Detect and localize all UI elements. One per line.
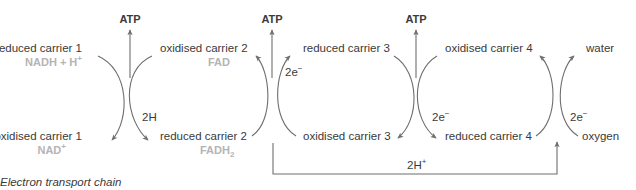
- curve-carrier4-oxidation: [536, 56, 553, 136]
- label-oxidised-carrier-2: oxidised carrier 2: [160, 42, 248, 54]
- label-reduced-carrier-1: reduced carrier 1: [0, 42, 82, 54]
- label-oxidised-carrier-1: oxidised carrier 1: [0, 130, 82, 142]
- chem-fadh2: FADH2: [200, 144, 235, 159]
- chem-nadh: NADH + H+: [25, 54, 82, 68]
- label-water: water: [585, 42, 614, 54]
- atp-label-3: ATP: [405, 13, 426, 25]
- transfer-label-2e-2: 2e−: [432, 109, 450, 123]
- atp-label-2: ATP: [261, 13, 282, 25]
- curve-carrier4-reduction: [417, 56, 437, 138]
- curve-carrier2-oxidation: [252, 56, 268, 136]
- label-reduced-carrier-3: reduced carrier 3: [303, 42, 390, 54]
- transfer-label-2h-plus: 2H+: [407, 157, 427, 171]
- label-reduced-carrier-2: reduced carrier 2: [160, 130, 247, 142]
- transfer-label-2e-3: 2e−: [570, 109, 588, 123]
- atp-label-1: ATP: [119, 13, 140, 25]
- label-oxidised-carrier-4: oxidised carrier 4: [445, 42, 533, 54]
- chem-fad: FAD: [208, 56, 230, 68]
- curve-carrier2-reduction: [129, 56, 152, 140]
- figure-caption: Electron transport chain: [0, 176, 121, 188]
- curve-carrier1-oxidation: [98, 56, 124, 140]
- label-oxidised-carrier-3: oxidised carrier 3: [303, 130, 391, 142]
- label-oxygen: oxygen: [582, 130, 619, 142]
- chem-nad: NAD+: [37, 142, 66, 156]
- curve-carrier3-oxidation: [394, 56, 414, 138]
- label-reduced-carrier-4: reduced carrier 4: [445, 130, 533, 142]
- curve-oxygen-to-water: [560, 56, 578, 136]
- electron-transport-chain-diagram: reduced carrier 1 NADH + H+ oxidised car…: [0, 0, 636, 190]
- transfer-label-2h: 2H: [142, 111, 157, 123]
- transfer-label-2e-1: 2e−: [285, 64, 303, 78]
